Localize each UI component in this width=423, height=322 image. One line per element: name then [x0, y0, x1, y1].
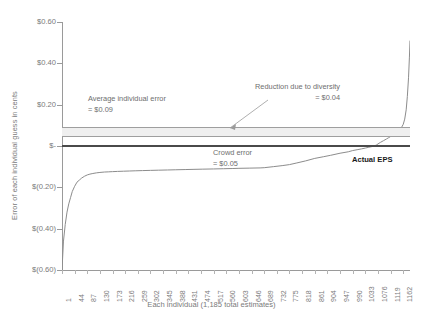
reduction-due-to-diversity-band	[62, 127, 410, 135]
x-axis-title: Each individual (1,185 total estimates)	[0, 300, 423, 309]
x-axis-tick-mark	[62, 270, 63, 274]
crowd-error-line	[62, 136, 410, 137]
y-axis-tick-label: $0.20	[10, 100, 56, 109]
x-axis-tick-mark	[188, 270, 189, 274]
annotation-reduction-due-to-diversity: Reduction due to diversity = $0.04	[255, 82, 340, 103]
x-axis-tick-mark	[100, 270, 101, 274]
x-axis-tick-mark	[327, 270, 328, 274]
x-axis-tick-mark	[87, 270, 88, 274]
annotation-reduction-due-to-diversity-line2: = $0.04	[255, 93, 340, 104]
annotation-average-individual-error-line2: = $0.09	[88, 105, 166, 116]
annotation-crowd-error-line2: = $0.05	[213, 159, 252, 170]
x-axis-tick-mark	[113, 270, 114, 274]
annotation-average-individual-error-line1: Average individual error	[88, 94, 166, 105]
x-axis-tick-mark	[125, 270, 126, 274]
y-axis-tick-label: $0.40	[10, 58, 56, 67]
x-axis-tick-mark	[277, 270, 278, 274]
y-axis-tick-label: $(0.40)	[10, 224, 56, 233]
annotation-average-individual-error: Average individual error = $0.09	[88, 94, 166, 115]
x-axis-tick-mark	[239, 270, 240, 274]
x-axis-tick-mark	[138, 270, 139, 274]
y-axis-tick-label: $0.60	[10, 17, 56, 26]
x-axis-tick-mark	[289, 270, 290, 274]
x-axis-tick-mark	[365, 270, 366, 274]
y-axis-tick-label: $(0.20)	[10, 182, 56, 191]
x-axis-tick-mark	[391, 270, 392, 274]
y-axis-tick-label: $-	[10, 141, 56, 150]
x-axis-tick-mark	[302, 270, 303, 274]
x-axis-tick-mark	[252, 270, 253, 274]
x-axis-tick-mark	[403, 270, 404, 274]
x-axis-tick-mark	[264, 270, 265, 274]
annotation-crowd-error: Crowd error = $0.05	[213, 148, 252, 169]
actual-eps-line	[62, 145, 410, 147]
average-individual-error-line	[62, 127, 410, 128]
x-axis-tick-mark	[214, 270, 215, 274]
annotation-reduction-due-to-diversity-line1: Reduction due to diversity	[255, 82, 340, 93]
y-axis-tick-label: $(0.60)	[10, 265, 56, 274]
x-axis-tick-mark	[378, 270, 379, 274]
x-axis-tick-mark	[353, 270, 354, 274]
chart-container: Error of each individual guess in cents …	[0, 0, 423, 322]
x-axis-line	[62, 270, 410, 271]
x-axis-tick-mark	[176, 270, 177, 274]
x-axis-tick-mark	[340, 270, 341, 274]
plot-area	[62, 22, 410, 270]
x-axis-tick-mark	[150, 270, 151, 274]
x-axis-tick-mark	[201, 270, 202, 274]
annotation-crowd-error-line1: Crowd error	[213, 148, 252, 159]
y-axis-tick-labels: $0.60$0.40$0.20$-$(0.20)$(0.40)$(0.60)	[8, 0, 56, 322]
x-axis-tick-mark	[226, 270, 227, 274]
x-axis-tick-mark	[315, 270, 316, 274]
actual-eps-label: Actual EPS	[352, 155, 393, 164]
x-axis-tick-mark	[75, 270, 76, 274]
x-axis-tick-mark	[163, 270, 164, 274]
